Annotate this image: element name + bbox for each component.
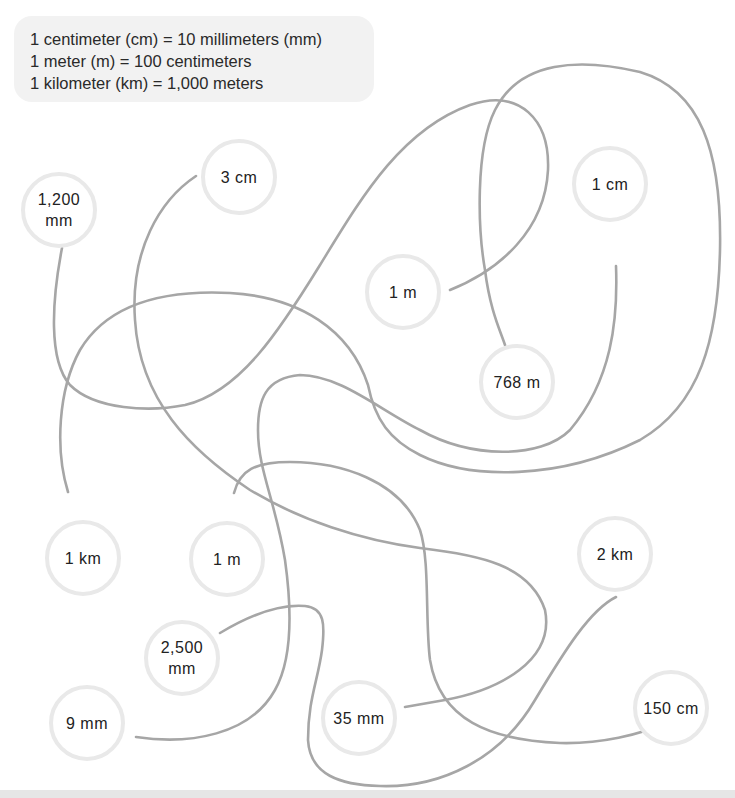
node-label: 1 m <box>213 549 241 570</box>
node-35mm[interactable]: 35 mm <box>321 680 397 756</box>
path-1m-150cm <box>234 462 668 743</box>
node-label: 2,500 mm <box>161 637 204 679</box>
node-1200mm[interactable]: 1,200 mm <box>21 172 97 248</box>
node-label: 3 cm <box>221 167 258 188</box>
path-1200mm-1m <box>54 100 548 408</box>
node-150cm[interactable]: 150 cm <box>633 670 709 746</box>
node-3cm[interactable]: 3 cm <box>201 139 277 215</box>
path-2500mm-2km <box>220 597 616 786</box>
node-1m-lower[interactable]: 1 m <box>189 521 265 597</box>
node-label: 9 mm <box>66 713 108 734</box>
node-2km[interactable]: 2 km <box>577 516 653 592</box>
node-9mm[interactable]: 9 mm <box>49 685 125 761</box>
node-label: 150 cm <box>643 698 698 719</box>
node-1m-upper[interactable]: 1 m <box>365 254 441 330</box>
node-1cm[interactable]: 1 cm <box>572 146 648 222</box>
node-768m[interactable]: 768 m <box>479 344 555 420</box>
node-1km[interactable]: 1 km <box>45 520 121 596</box>
node-label: 1 km <box>65 548 102 569</box>
node-2500mm[interactable]: 2,500 mm <box>144 620 220 696</box>
node-label: 2 km <box>597 544 634 565</box>
node-label: 768 m <box>494 372 541 393</box>
node-label: 1 cm <box>592 174 629 195</box>
connection-lines <box>0 0 735 798</box>
node-label: 35 mm <box>333 708 384 729</box>
node-label: 1 m <box>389 282 417 303</box>
node-label: 1,200 mm <box>38 189 81 231</box>
bottom-divider <box>0 790 735 798</box>
